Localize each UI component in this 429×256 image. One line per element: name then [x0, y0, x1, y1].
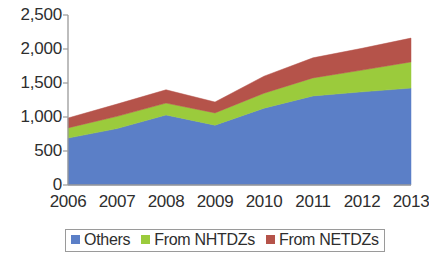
chart-legend: OthersFrom NHTDZsFrom NETDZs: [65, 229, 385, 252]
x-axis-tick-label: 2008: [148, 193, 185, 210]
x-axis-tick-label: 2012: [344, 193, 381, 210]
y-axis-tick-label: 2,500: [4, 6, 62, 23]
y-axis-tick-label: 500: [4, 142, 62, 159]
x-axis-tick-label: 2006: [50, 193, 87, 210]
y-axis-tick-label: 1,000: [4, 108, 62, 125]
x-axis-tick-label: 2007: [99, 193, 136, 210]
x-axis-tick-labels: 20062007200820092010201120122013: [0, 191, 421, 217]
x-axis-tick-label: 2010: [246, 193, 283, 210]
legend-swatch-icon: [141, 235, 150, 244]
legend-swatch-icon: [71, 235, 80, 244]
legend-label: From NETDZs: [279, 231, 379, 249]
legend-swatch-icon: [266, 235, 275, 244]
legend-label: Others: [84, 231, 130, 249]
y-axis-tick-labels: 05001,0001,5002,0002,500: [0, 0, 62, 200]
y-axis-tick-label: 2,000: [4, 40, 62, 57]
x-axis-tick-label: 2013: [393, 193, 429, 210]
legend-item: From NETDZs: [266, 231, 379, 249]
y-axis-tick-label: 1,500: [4, 74, 62, 91]
legend-item: Others: [71, 231, 130, 249]
legend-label: From NHTDZs: [154, 231, 255, 249]
legend-item: From NHTDZs: [141, 231, 255, 249]
x-axis-tick-label: 2009: [197, 193, 234, 210]
x-axis-tick-label: 2011: [295, 193, 330, 210]
